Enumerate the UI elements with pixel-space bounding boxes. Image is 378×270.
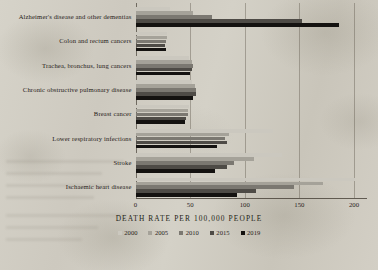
bar-2019	[136, 193, 238, 197]
x-axis-line	[136, 198, 368, 199]
gridline-100	[245, 3, 246, 198]
x-tick-label: 150	[294, 202, 304, 209]
x-tick-label: 100	[240, 202, 250, 209]
x-tick-label: 50	[187, 202, 194, 209]
x-tick-label: 200	[349, 202, 359, 209]
chart-legend: 20002005201020152019	[0, 229, 378, 236]
legend-label: 2010	[186, 229, 199, 236]
x-axis-title: DEATH RATE PER 100,000 PEOPLE	[0, 214, 378, 223]
category-label: Ischaemic heart disease	[0, 184, 132, 191]
legend-swatch-icon	[210, 231, 214, 235]
category-label: Breast cancer	[0, 111, 132, 118]
legend-label: 2005	[155, 229, 168, 236]
category-label: Trachea, bronchus, lung cancers	[0, 62, 132, 69]
bar-2019	[136, 120, 185, 124]
bar-2019	[136, 48, 167, 52]
legend-swatch-icon	[118, 231, 122, 235]
x-tick-label: 0	[134, 202, 137, 209]
legend-item-2010[interactable]: 2010	[179, 229, 199, 236]
legend-item-2000[interactable]: 2000	[118, 229, 138, 236]
legend-swatch-icon	[241, 231, 245, 235]
legend-item-2019[interactable]: 2019	[241, 229, 261, 236]
legend-item-2005[interactable]: 2005	[148, 229, 168, 236]
bar-2019	[136, 169, 216, 173]
legend-swatch-icon	[179, 231, 183, 235]
gridline-200	[354, 3, 355, 198]
bar-2019	[136, 23, 339, 27]
bar-2019	[136, 96, 194, 100]
grouped-bar-chart: Alzheimer's disease and other dementiasC…	[0, 0, 378, 270]
legend-item-2015[interactable]: 2015	[210, 229, 230, 236]
category-label: Chronic obstructive pulmonary disease	[0, 87, 132, 94]
legend-label: 2019	[247, 229, 260, 236]
legend-label: 2000	[124, 229, 137, 236]
category-label: Alzheimer's disease and other dementias	[0, 14, 132, 21]
legend-label: 2015	[216, 229, 229, 236]
legend-swatch-icon	[148, 231, 152, 235]
bar-2019	[136, 145, 218, 149]
bar-2019	[136, 72, 191, 76]
gridline-150	[299, 3, 300, 198]
category-label: Colon and rectum cancers	[0, 38, 132, 45]
category-label: Stroke	[0, 160, 132, 167]
category-label: Lower respiratory infections	[0, 135, 132, 142]
